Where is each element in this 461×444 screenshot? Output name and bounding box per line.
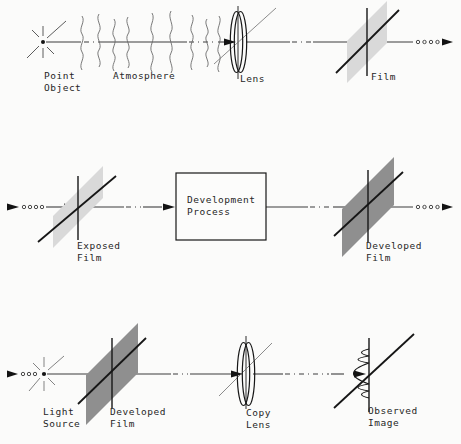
developed-film-2-label: Developed Film [110, 406, 166, 430]
exposed-film-label: Exposed Film [77, 240, 121, 264]
copy-lens-icon [219, 336, 272, 409]
point-object-icon [27, 21, 66, 58]
copy-lens-label: Copy Lens [246, 407, 271, 431]
light-source-label: Light Source [43, 406, 80, 430]
diagram-line-art [0, 0, 461, 444]
optical-axis-row1 [46, 38, 453, 45]
lens-label: Lens [240, 73, 265, 85]
film-label: Film [371, 71, 396, 83]
observed-image-label: Observed Image [368, 405, 418, 429]
development-process-label: Development Process [187, 194, 255, 218]
point-object-label: Point Object [44, 70, 81, 94]
developed-film-label: Developed Film [366, 240, 422, 264]
optical-axis-row3 [7, 371, 366, 378]
observed-image-psf-icon [334, 334, 414, 412]
atmosphere-label: Atmosphere [113, 70, 175, 82]
diagram: Point Object Atmosphere Lens Film Expose… [0, 0, 461, 444]
